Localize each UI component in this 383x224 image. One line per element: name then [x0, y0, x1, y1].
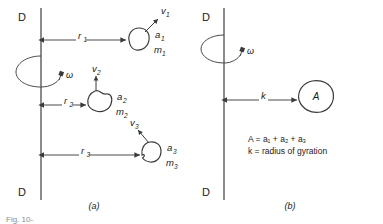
- omega-indicator-b: ω: [201, 35, 254, 63]
- mass-sub-2: 2: [123, 112, 128, 119]
- velocity-arrow-3: [138, 130, 149, 143]
- mass-group-2: r 2 v 2 a 2 m 2: [44, 63, 128, 119]
- mass-label-3: m: [166, 157, 174, 168]
- omega-arrow-icon: [240, 50, 243, 57]
- equivalent-area-label: A: [312, 91, 320, 102]
- axis-bottom-label-a: D: [18, 186, 26, 198]
- panel-b-notes: A = a₁ + a₂ + a₃ k = radius of gyration: [248, 134, 327, 156]
- panel-b: D D ω k A A = a₁ + a₂ + a₃ k = radius of…: [201, 8, 333, 211]
- omega-arrow-icon: [59, 74, 62, 81]
- note-line-2: k = radius of gyration: [248, 146, 327, 156]
- note-line-1: A = a₁ + a₂ + a₃: [248, 134, 306, 144]
- radius-sub-3: 3: [87, 151, 91, 158]
- mass-blob-2: [88, 91, 112, 112]
- area-label-3: a: [167, 142, 172, 153]
- panel-a: D D ω r 1 v 1 a 1 m 1: [16, 5, 178, 211]
- omega-indicator-a: ω: [16, 56, 73, 87]
- velocity-sub-2: 2: [96, 69, 101, 76]
- mass-group-1: r 1 v 1 a 1 m 1: [44, 5, 170, 57]
- figure-container: D D ω r 1 v 1 a 1 m 1: [0, 0, 383, 224]
- radius-of-gyration-label: k: [261, 90, 267, 101]
- radius-label-1: r: [78, 30, 82, 41]
- radius-sub-2: 2: [69, 101, 74, 108]
- radius-sub-1: 1: [84, 36, 88, 43]
- axis-top-label-a: D: [18, 11, 26, 23]
- area-sub-1: 1: [161, 35, 165, 42]
- velocity-sub-1: 1: [166, 11, 170, 18]
- area-sub-2: 2: [122, 97, 127, 104]
- radius-label-3: r: [81, 145, 85, 156]
- mass-label-1: m: [154, 44, 162, 55]
- omega-label-a: ω: [66, 70, 73, 80]
- area-label-1: a: [155, 29, 160, 40]
- mass-sub-1: 1: [162, 50, 166, 57]
- panel-label-a: (a): [89, 201, 100, 211]
- omega-arc-icon: [201, 35, 241, 63]
- mass-blob-3: [142, 142, 161, 162]
- axis-bottom-label-b: D: [202, 186, 210, 198]
- figure-caption: Fig. 10-: [6, 215, 33, 224]
- omega-label-b: ω: [247, 46, 254, 56]
- equivalent-body-group: k A: [227, 81, 333, 113]
- omega-arc-icon: [16, 56, 60, 87]
- area-sub-3: 3: [173, 148, 177, 155]
- mass-label-2: m: [116, 106, 124, 117]
- panel-label-b: (b): [285, 201, 296, 211]
- mass-group-3: r 3 v 3 a 3 m 3: [44, 117, 178, 170]
- velocity-sub-3: 3: [135, 123, 139, 130]
- mass-sub-3: 3: [174, 163, 178, 170]
- radius-label-2: r: [64, 95, 68, 106]
- area-label-2: a: [117, 91, 122, 102]
- axis-top-label-b: D: [202, 11, 210, 23]
